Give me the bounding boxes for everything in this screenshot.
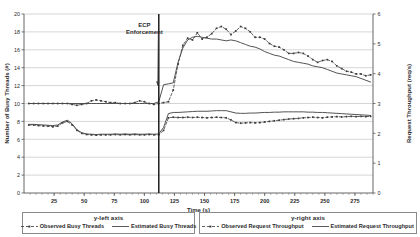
series-marker-2 [249, 122, 251, 124]
ecp-annotation-line1: ECP [138, 22, 150, 28]
series-marker-2 [206, 117, 208, 119]
legend-swatch-solid [112, 224, 129, 229]
series-marker-2 [245, 122, 247, 124]
series-marker-0 [245, 27, 247, 29]
series-marker-0 [288, 53, 290, 55]
series-marker-0 [278, 46, 280, 48]
tick-label-x: 250 [320, 198, 329, 204]
series-marker-0 [249, 31, 251, 33]
tick-label-y-left: 18 [14, 29, 20, 35]
series-marker-0 [346, 70, 348, 72]
series-marker-2 [355, 116, 357, 118]
series-marker-2 [293, 118, 295, 120]
series-marker-0 [264, 38, 266, 40]
series-marker-0 [365, 75, 367, 77]
series-marker-0 [91, 100, 93, 102]
tick-label-y-left: 10 [14, 101, 20, 107]
tick-label-x: 125 [170, 198, 179, 204]
series-marker-2 [283, 119, 285, 121]
tick-label-y-left: 20 [14, 11, 20, 17]
series-marker-2 [264, 121, 266, 123]
legend-item-estimated-busy-threads: Estimated Busy Threads [112, 223, 196, 230]
tick-label-y-right: 6 [378, 11, 381, 17]
series-marker-0 [95, 99, 97, 101]
series-marker-0 [355, 73, 357, 75]
series-marker-0 [172, 89, 174, 91]
tick-label-y-left: 0 [17, 190, 20, 196]
series-marker-0 [307, 55, 309, 57]
series-marker-0 [293, 53, 295, 55]
series-marker-0 [240, 26, 242, 28]
series-marker-0 [370, 74, 372, 76]
tick-label-y-left: 6 [17, 137, 20, 143]
series-marker-2 [336, 116, 338, 118]
series-marker-2 [350, 115, 352, 117]
tick-label-x: 225 [290, 198, 299, 204]
legend-label: Observed Request Throughput [221, 223, 303, 230]
series-marker-0 [235, 30, 237, 32]
series-marker-0 [201, 38, 203, 40]
legend-right-title: y-right axis [200, 214, 416, 222]
series-marker-2 [172, 116, 174, 118]
legend-left-title: y-left axis [23, 214, 194, 222]
tick-label-x: 100 [140, 198, 149, 204]
series-marker-0 [254, 36, 256, 38]
series-marker-0 [192, 39, 194, 41]
series-marker-2 [302, 117, 304, 119]
legend-swatch-dashed-marker [202, 224, 219, 229]
chart-canvas: 0246810121416182001234562550751001251501… [0, 0, 420, 237]
series-marker-2 [273, 120, 275, 122]
legend-item-observed-busy-threads: Observed Busy Threads [21, 223, 104, 230]
series-marker-0 [187, 37, 189, 39]
tick-label-x: 175 [230, 198, 239, 204]
series-marker-0 [230, 34, 232, 36]
series-marker-2 [230, 119, 232, 121]
series-marker-0 [196, 32, 198, 34]
legend-y-left-axis: y-left axis Observed Busy Threads Estima… [22, 212, 195, 234]
series-marker-0 [283, 49, 285, 51]
series-marker-0 [225, 28, 227, 30]
series-marker-2 [168, 117, 170, 119]
series-line-1 [29, 36, 371, 103]
legend-y-right-axis: y-right axis Observed Request Throughput… [199, 212, 417, 234]
tick-label-y-left: 16 [14, 47, 20, 53]
series-marker-0 [216, 27, 218, 29]
axis-title-y-right: Request Throughput (req/s) [406, 64, 412, 143]
tick-label-y-right: 4 [378, 71, 381, 77]
tick-label-x: 75 [111, 198, 117, 204]
tick-label-x: 150 [200, 198, 209, 204]
series-marker-2 [331, 116, 333, 118]
series-marker-0 [182, 44, 184, 46]
series-marker-0 [336, 65, 338, 67]
series-marker-0 [211, 33, 213, 35]
tick-label-y-left: 8 [17, 119, 20, 125]
ecp-annotation-line2: Enforcement [126, 29, 163, 35]
series-marker-2 [57, 125, 59, 127]
series-marker-2 [326, 116, 328, 118]
tick-label-x: 275 [350, 198, 359, 204]
series-marker-0 [273, 45, 275, 47]
tick-label-y-right: 3 [378, 101, 381, 107]
series-marker-2 [288, 118, 290, 120]
series-marker-2 [312, 116, 314, 118]
series-marker-2 [216, 116, 218, 118]
legend-label: Estimated Busy Threads [131, 223, 196, 230]
series-marker-2 [240, 122, 242, 124]
legend-swatch-solid [312, 224, 329, 229]
series-marker-2 [317, 117, 319, 119]
tick-label-y-right: 0 [378, 190, 381, 196]
series-marker-0 [105, 101, 107, 103]
legend-swatch-dashed-marker [21, 224, 38, 229]
series-marker-2 [360, 115, 362, 117]
series-marker-0 [221, 26, 223, 28]
series-marker-2 [221, 117, 223, 119]
series-marker-0 [259, 36, 261, 38]
series-marker-0 [331, 61, 333, 63]
tick-label-y-left: 2 [17, 172, 20, 178]
series-marker-0 [100, 100, 102, 102]
series-marker-2 [182, 117, 184, 119]
tick-label-y-left: 4 [17, 154, 20, 160]
series-marker-2 [346, 116, 348, 118]
series-marker-2 [254, 122, 256, 124]
series-marker-2 [211, 117, 213, 119]
